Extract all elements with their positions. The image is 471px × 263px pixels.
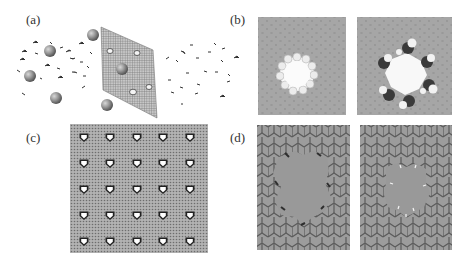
pore-space-filling-right (357, 17, 452, 115)
panel-c-pore-array (70, 124, 208, 253)
honeycomb-pore-left (257, 125, 350, 250)
membrane-scene (0, 20, 250, 120)
ion (44, 45, 56, 57)
panel-label-d: (d) (230, 130, 245, 146)
ion (24, 70, 36, 82)
panel-b-pore-right (357, 17, 452, 115)
ion (87, 29, 99, 41)
ion (101, 99, 113, 111)
ion-in-pore (116, 63, 128, 75)
panel-a-membrane-permeation (0, 20, 250, 120)
porous-graphene-sheet (70, 124, 208, 253)
panel-d-honeycomb-right (360, 125, 452, 250)
ion (50, 92, 62, 104)
panel-b-pore-left (258, 17, 346, 115)
honeycomb-pore-right (360, 125, 452, 250)
panel-d-honeycomb-left (257, 125, 350, 250)
water-molecules-right (166, 43, 239, 104)
pore-space-filling-left (258, 17, 346, 115)
panel-label-c: (c) (26, 130, 40, 146)
